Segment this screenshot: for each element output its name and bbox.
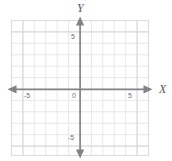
coordinate-grid-svg bbox=[0, 0, 172, 161]
x-axis-title: X bbox=[159, 83, 166, 95]
y-tick-label-positive-5: 5 bbox=[71, 33, 75, 40]
coordinate-plane: Y X -5 5 5 -5 0 bbox=[0, 0, 172, 161]
origin-label: 0 bbox=[72, 92, 76, 99]
y-axis-arrow-down bbox=[76, 150, 84, 159]
x-tick-label-positive-5: 5 bbox=[128, 92, 132, 99]
y-tick-label-negative-5: -5 bbox=[68, 134, 74, 141]
y-axis bbox=[76, 17, 84, 159]
x-tick-label-negative-5: -5 bbox=[24, 92, 30, 99]
y-axis-title: Y bbox=[77, 2, 84, 14]
